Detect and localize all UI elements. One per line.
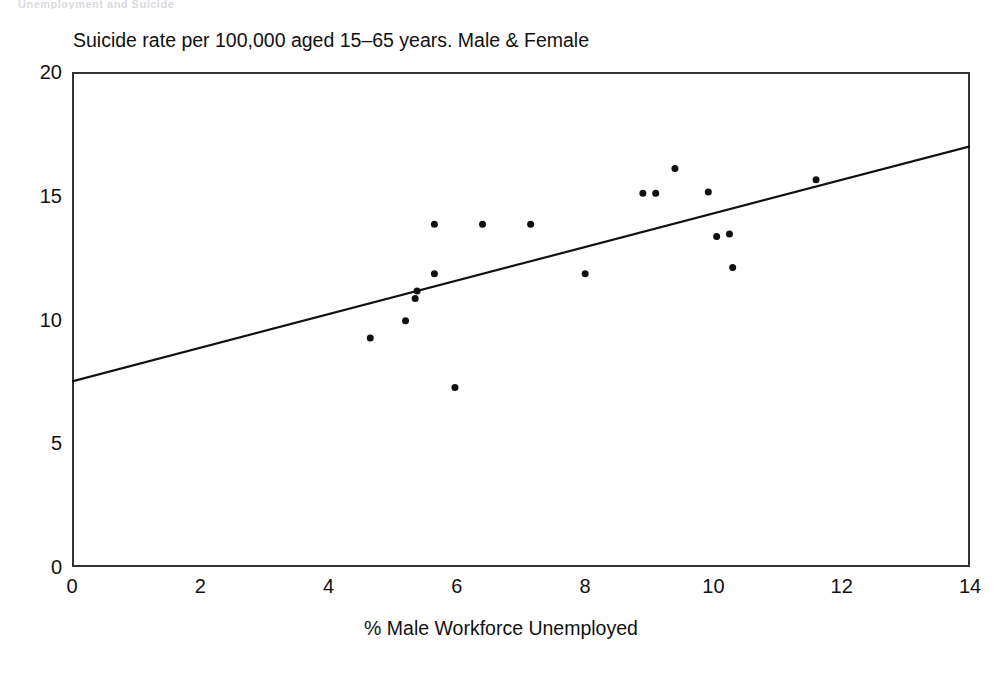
- data-point: [431, 221, 438, 228]
- x-axis-title: % Male Workforce Unemployed: [0, 616, 1002, 640]
- data-point: [451, 384, 458, 391]
- data-point: [639, 190, 646, 197]
- x-axis-tick-labels: 02468101214: [72, 574, 970, 602]
- data-point: [402, 317, 409, 324]
- y-tick-label: 15: [16, 186, 62, 206]
- data-point: [726, 231, 733, 238]
- data-point: [582, 270, 589, 277]
- y-axis-tick-labels: 05101520: [10, 72, 62, 567]
- x-tick-label: 10: [683, 574, 743, 598]
- data-point: [713, 233, 720, 240]
- y-tick-label: 10: [16, 310, 62, 330]
- data-point: [729, 264, 736, 271]
- scatter-plot-svg: [72, 72, 970, 567]
- plot-frame: [73, 73, 969, 566]
- data-point: [479, 221, 486, 228]
- x-tick-label: 8: [555, 574, 615, 598]
- data-point: [671, 165, 678, 172]
- data-point: [414, 288, 421, 295]
- data-point: [813, 176, 820, 183]
- scan-header-fragment: Unemployment and Suicide: [18, 0, 378, 9]
- x-tick-label: 2: [170, 574, 230, 598]
- data-point: [367, 335, 374, 342]
- y-tick-label: 5: [16, 433, 62, 453]
- x-tick-label: 12: [812, 574, 872, 598]
- data-point: [652, 190, 659, 197]
- plot-area: [72, 72, 970, 567]
- x-tick-label: 6: [427, 574, 487, 598]
- x-tick-label: 4: [299, 574, 359, 598]
- chart-title: Suicide rate per 100,000 aged 15–65 year…: [73, 28, 589, 52]
- x-tick-label: 14: [940, 574, 1000, 598]
- figure-canvas: Unemployment and Suicide Suicide rate pe…: [0, 0, 1002, 683]
- plot-frame-rect: [73, 73, 969, 566]
- y-tick-label: 20: [16, 62, 62, 82]
- data-point-series: [367, 165, 820, 391]
- data-point: [412, 295, 419, 302]
- data-point: [431, 270, 438, 277]
- data-point: [527, 221, 534, 228]
- regression-line: [72, 146, 970, 381]
- trendline: [72, 146, 970, 381]
- x-tick-label: 0: [42, 574, 102, 598]
- data-point: [705, 189, 712, 196]
